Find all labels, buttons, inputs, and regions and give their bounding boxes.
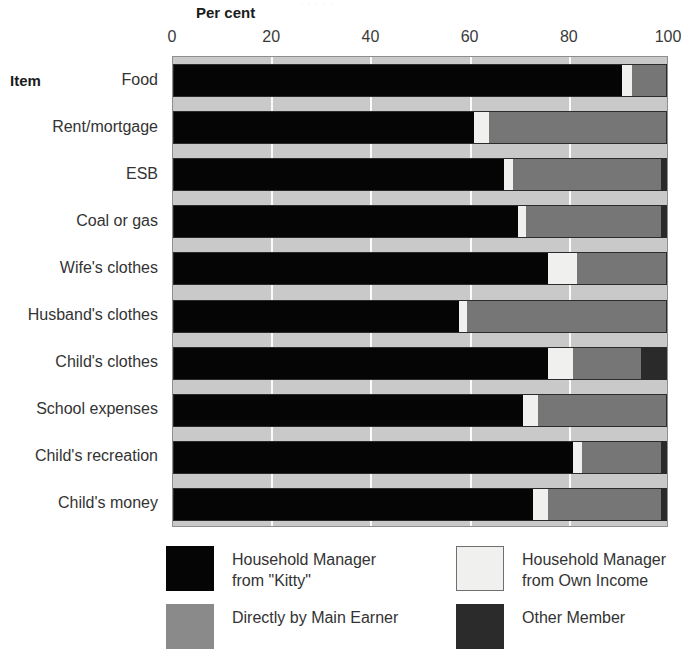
bar-segment: [526, 206, 661, 237]
y-tick-label: ESB: [126, 165, 158, 183]
legend-item: Household Manager from Own Income: [456, 546, 666, 591]
bar-segment: [661, 206, 666, 237]
legend-label: Household Manager from Own Income: [522, 546, 666, 591]
bar-stack: [173, 394, 667, 427]
chart-plot-area: [172, 56, 668, 527]
bar-segment: [533, 489, 548, 520]
bar-stack: [173, 300, 667, 333]
bar-segment: [661, 442, 666, 473]
bar-stack: [173, 347, 667, 380]
y-tick-label: Wife's clothes: [60, 259, 158, 277]
bar-stack: [173, 64, 667, 97]
bar-segment: [489, 112, 666, 143]
legend-label: Household Manager from "Kitty": [232, 546, 376, 591]
bar-segment: [523, 395, 538, 426]
legend-item: Household Manager from "Kitty": [166, 546, 376, 591]
bar-stack: [173, 158, 667, 191]
bar-segment: [513, 159, 661, 190]
bar-segment: [174, 395, 523, 426]
bar-segment: [622, 65, 632, 96]
chart-legend: Household Manager from "Kitty"Household …: [166, 546, 678, 656]
bar-segment: [504, 159, 514, 190]
y-tick-label: Food: [122, 71, 158, 89]
bar-segment: [174, 206, 518, 237]
bar-segment: [548, 489, 661, 520]
bar-segment: [573, 442, 583, 473]
bar-segment: [661, 159, 666, 190]
legend-item: Other Member: [456, 604, 625, 649]
bar-segment: [174, 112, 474, 143]
bar-segment: [174, 65, 622, 96]
bar-segment: [459, 301, 466, 332]
axis-title: Per cent: [196, 4, 255, 21]
bar-segment: [174, 489, 533, 520]
x-tick-label: 100: [655, 28, 681, 46]
y-tick-label: Rent/mortgage: [52, 118, 158, 136]
bar-segment: [632, 65, 666, 96]
y-tick-label: Coal or gas: [76, 212, 158, 230]
y-tick-label: Husband's clothes: [28, 306, 158, 324]
x-axis-tick-labels: 020406080100: [0, 28, 678, 48]
bar-segment: [174, 348, 548, 379]
bar-stack: [173, 252, 667, 285]
x-tick-label: 20: [262, 28, 280, 46]
bar-segment: [548, 348, 573, 379]
legend-swatch: [456, 546, 504, 591]
bar-segment: [538, 395, 666, 426]
bar-segment: [467, 301, 666, 332]
legend-label: Directly by Main Earner: [232, 604, 398, 628]
y-tick-label: Child's recreation: [35, 447, 158, 465]
bar-stack: [173, 441, 667, 474]
item-axis-label: Item: [10, 71, 41, 88]
legend-swatch: [166, 604, 214, 649]
bar-segment: [573, 348, 642, 379]
x-tick-label: 80: [560, 28, 578, 46]
legend-swatch: [166, 546, 214, 591]
bar-segment: [661, 489, 666, 520]
legend-item: Directly by Main Earner: [166, 604, 398, 649]
x-tick-label: 0: [168, 28, 177, 46]
bar-stack: [173, 205, 667, 238]
bar-segment: [174, 442, 573, 473]
y-axis-category-labels: Item FoodRent/mortgageESBCoal or gasWife…: [0, 56, 172, 527]
legend-label: Other Member: [522, 604, 625, 628]
x-tick-label: 40: [361, 28, 379, 46]
top-cutoff-text: · · · · ·: [300, 0, 600, 7]
bar-segment: [474, 112, 489, 143]
y-tick-label: Child's clothes: [55, 353, 158, 371]
bar-stack: [173, 111, 667, 144]
y-tick-label: Child's money: [58, 494, 158, 512]
bar-stack: [173, 488, 667, 521]
bar-segment: [518, 206, 525, 237]
bar-segment: [548, 253, 578, 284]
top-cutoff-artifact: · · · · ·: [300, 0, 600, 7]
bar-segment: [174, 301, 459, 332]
y-tick-label: School expenses: [36, 400, 158, 418]
bar-segment: [174, 253, 548, 284]
bar-segment: [582, 442, 661, 473]
bar-segment: [174, 159, 504, 190]
bar-segment: [641, 348, 666, 379]
legend-swatch: [456, 604, 504, 649]
x-tick-label: 60: [461, 28, 479, 46]
bar-segment: [577, 253, 666, 284]
